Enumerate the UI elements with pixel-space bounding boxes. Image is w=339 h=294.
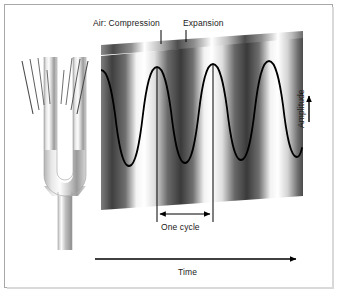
label-one-cycle: One cycle: [161, 222, 200, 232]
sound-wave-diagram: Air: Compression Expansion One cycle Tim…: [0, 0, 339, 294]
tuning-fork: [44, 57, 86, 250]
label-expansion: Expansion: [183, 18, 224, 28]
label-amplitude-axis: Amplitude: [296, 89, 306, 128]
label-air-compression: Air: Compression: [93, 18, 160, 28]
diagram-graphics: [0, 0, 339, 294]
label-time-axis: Time: [178, 267, 197, 277]
